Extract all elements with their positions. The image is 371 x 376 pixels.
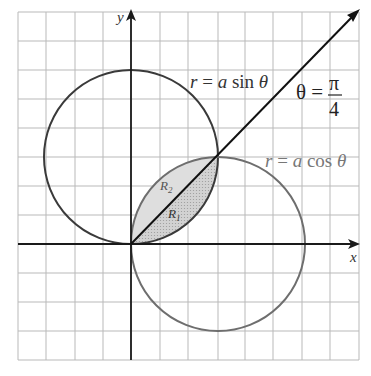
y-axis-label: y [115,9,124,25]
x-axis-label: x [349,249,357,265]
ray-label-numerator: π [329,72,339,94]
ray-label-lhs: θ = [296,80,323,104]
sine-curve-label: r = a sin θ [190,71,268,92]
ray-theta-pi-over-4 [131,17,352,244]
polar-diagram: x y r = a sin θ r = a cos θ θ = π 4 R2 R… [0,0,371,376]
ray-label-denominator: 4 [329,98,339,120]
cosine-curve-label: r = a cos θ [265,150,346,171]
